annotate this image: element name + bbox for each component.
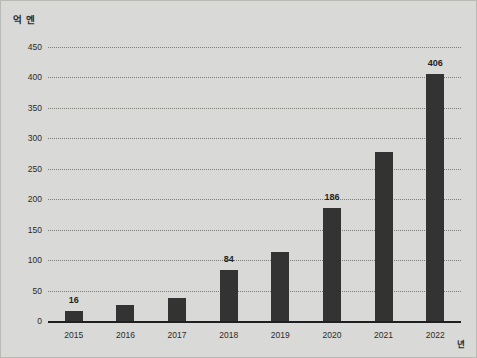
bar-value-label: 186 xyxy=(310,192,354,202)
bar-value-label: 16 xyxy=(52,295,96,305)
x-axis-tick-label: 2015 xyxy=(52,330,96,340)
y-axis-tick-label: 150 xyxy=(28,225,42,235)
bar-group: 2016 xyxy=(103,47,147,321)
x-axis-unit-label: 년 xyxy=(457,337,465,349)
x-axis-tick-label: 2021 xyxy=(362,330,406,340)
x-axis-tick-label: 2022 xyxy=(413,330,457,340)
x-axis-tick-label: 2018 xyxy=(207,330,251,340)
bar-chart: 억 엔 450400350300250200150100500 16201520… xyxy=(0,0,477,358)
bar-group: 2019 xyxy=(258,47,302,321)
x-axis-tick-label: 2019 xyxy=(258,330,302,340)
bar-group: 4062022 xyxy=(413,47,457,321)
x-axis-line xyxy=(48,321,461,323)
x-axis-tick-label: 2020 xyxy=(310,330,354,340)
y-axis-tick-label: 200 xyxy=(28,194,42,204)
y-axis-tick-label: 300 xyxy=(28,133,42,143)
bar-group: 162015 xyxy=(52,47,96,321)
y-axis-tick-label: 50 xyxy=(33,286,42,296)
bar xyxy=(220,270,238,321)
x-axis-tick-label: 2017 xyxy=(155,330,199,340)
x-axis-tick-label: 2016 xyxy=(103,330,147,340)
bar-group: 2017 xyxy=(155,47,199,321)
bar xyxy=(65,311,83,321)
y-axis-tick-label: 450 xyxy=(28,42,42,52)
bar xyxy=(426,74,444,321)
bar-group: 2021 xyxy=(362,47,406,321)
y-axis-tick-label: 250 xyxy=(28,164,42,174)
bar xyxy=(323,208,341,321)
y-axis-tick-label: 350 xyxy=(28,103,42,113)
bar xyxy=(375,152,393,321)
y-axis-tick-label: 400 xyxy=(28,72,42,82)
bar-group: 1862020 xyxy=(310,47,354,321)
bar-value-label: 406 xyxy=(413,58,457,68)
plot-area: 450400350300250200150100500 162015201620… xyxy=(48,47,461,321)
y-axis-tick-label: 0 xyxy=(37,316,42,326)
y-axis-tick-label: 100 xyxy=(28,255,42,265)
y-axis-unit-label: 억 엔 xyxy=(13,12,35,26)
bar xyxy=(168,298,186,321)
bar xyxy=(271,252,289,321)
bar-group: 842018 xyxy=(207,47,251,321)
bar-value-label: 84 xyxy=(207,254,251,264)
bar xyxy=(116,305,134,321)
